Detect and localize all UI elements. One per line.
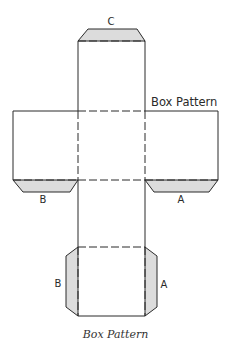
tab-c xyxy=(78,29,145,41)
box-pattern-label: Box Pattern xyxy=(151,95,217,109)
label-c: C xyxy=(108,16,115,27)
box-pattern-diagram: C Box Pattern B A B A xyxy=(0,0,231,341)
tab-a-right-flap xyxy=(145,180,218,192)
tab-b-left-flap xyxy=(13,180,78,192)
label-b-flap: B xyxy=(40,194,47,205)
label-a-bottom: A xyxy=(161,279,168,290)
tab-b-bottom xyxy=(66,247,78,316)
label-a-flap: A xyxy=(178,194,185,205)
tab-a-bottom xyxy=(145,247,157,316)
figure-caption: Box Pattern xyxy=(0,328,231,341)
label-b-bottom: B xyxy=(55,278,62,289)
